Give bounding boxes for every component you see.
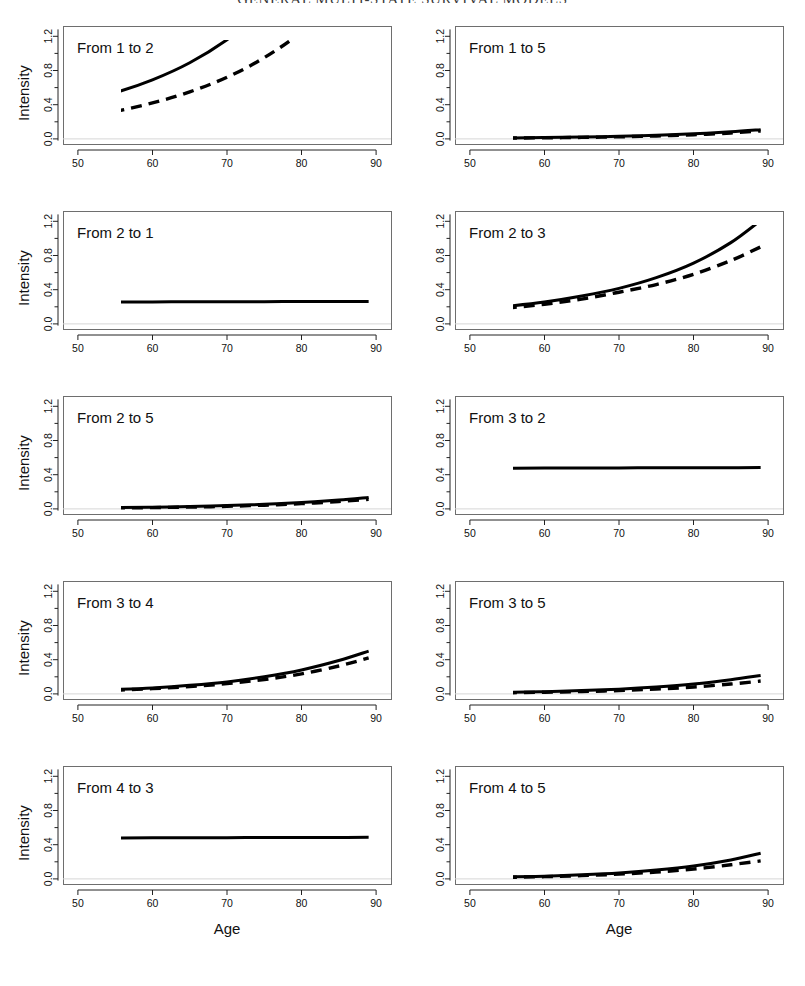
panel-title: From 4 to 3 — [77, 779, 154, 796]
y-tick-label: 0.0 — [434, 501, 446, 516]
x-tick-label: 70 — [221, 712, 233, 724]
x-tick-label: 90 — [370, 157, 382, 169]
figure-multi-panel-intensity-plots: GENERAL MULTI-STATE SURVIVAL MODELS 0.00… — [0, 0, 805, 986]
panel-from-1-to-5: 0.00.40.81.25060708090From 1 to 5 — [397, 12, 805, 192]
x-tick-label: 60 — [539, 342, 551, 354]
panel-from-3-to-2: 0.00.40.81.25060708090From 3 to 2 — [397, 382, 805, 562]
x-tick-label: 60 — [539, 527, 551, 539]
series-line-solid — [78, 837, 369, 838]
x-tick-label: 50 — [72, 712, 84, 724]
x-tick-label: 70 — [613, 712, 625, 724]
y-tick-label: 0.8 — [434, 63, 446, 78]
panel-from-4-to-5: 0.00.40.81.25060708090From 4 to 5 — [397, 752, 805, 932]
x-tick-label: 80 — [688, 157, 700, 169]
y-tick-label: 1.2 — [434, 399, 446, 414]
y-tick-label: 0.4 — [42, 837, 54, 852]
panel-title: From 2 to 1 — [77, 224, 154, 241]
x-tick-label: 50 — [72, 342, 84, 354]
y-tick-label: 0.0 — [42, 686, 54, 701]
y-axis-label: Intensity — [15, 65, 32, 121]
y-tick-label: 0.8 — [42, 433, 54, 448]
x-tick-label: 50 — [72, 157, 84, 169]
x-tick-label: 70 — [613, 897, 625, 909]
x-tick-label: 80 — [296, 897, 308, 909]
x-axis-label: Age — [455, 920, 783, 937]
panel-title: From 1 to 5 — [469, 39, 546, 56]
y-tick-label: 0.4 — [434, 282, 446, 297]
y-tick-label: 0.4 — [434, 652, 446, 667]
y-tick-label: 0.8 — [434, 248, 446, 263]
panel-from-2-to-3: 0.00.40.81.25060708090From 2 to 3 — [397, 197, 805, 377]
x-tick-label: 60 — [539, 897, 551, 909]
y-tick-label: 0.8 — [42, 248, 54, 263]
panel-from-1-to-2: 0.00.40.81.25060708090From 1 to 2 — [5, 12, 415, 192]
x-tick-label: 80 — [296, 712, 308, 724]
x-tick-label: 90 — [370, 712, 382, 724]
y-tick-label: 1.2 — [42, 214, 54, 229]
y-tick-label: 0.8 — [42, 618, 54, 633]
y-tick-label: 0.4 — [434, 837, 446, 852]
x-tick-label: 70 — [613, 157, 625, 169]
series-line-solid — [78, 301, 369, 302]
x-tick-label: 80 — [688, 712, 700, 724]
x-tick-label: 90 — [762, 712, 774, 724]
y-tick-label: 0.0 — [434, 686, 446, 701]
y-axis-label: Intensity — [15, 805, 32, 861]
panel-title: From 2 to 3 — [469, 224, 546, 241]
x-tick-label: 50 — [464, 897, 476, 909]
x-tick-label: 60 — [147, 897, 159, 909]
x-tick-label: 80 — [688, 897, 700, 909]
panel-title: From 1 to 2 — [77, 39, 154, 56]
y-tick-label: 0.0 — [42, 501, 54, 516]
x-tick-label: 50 — [72, 527, 84, 539]
panel-title: From 3 to 2 — [469, 409, 546, 426]
panel-from-2-to-5: 0.00.40.81.25060708090From 2 to 5 — [5, 382, 415, 562]
y-axis-label: Intensity — [15, 435, 32, 491]
x-tick-label: 90 — [370, 527, 382, 539]
x-tick-label: 90 — [370, 342, 382, 354]
y-tick-label: 0.4 — [42, 97, 54, 112]
x-tick-label: 80 — [688, 342, 700, 354]
x-tick-label: 80 — [688, 527, 700, 539]
y-tick-label: 1.2 — [42, 769, 54, 784]
y-tick-label: 0.4 — [434, 97, 446, 112]
x-tick-label: 50 — [464, 527, 476, 539]
y-tick-label: 0.0 — [42, 871, 54, 886]
y-tick-label: 1.2 — [42, 399, 54, 414]
y-tick-label: 0.8 — [434, 433, 446, 448]
x-tick-label: 70 — [221, 527, 233, 539]
panel-title: From 2 to 5 — [77, 409, 154, 426]
y-axis-label: Intensity — [15, 250, 32, 306]
y-tick-label: 0.4 — [42, 282, 54, 297]
x-tick-label: 60 — [147, 342, 159, 354]
panel-title: From 4 to 5 — [469, 779, 546, 796]
x-tick-label: 60 — [147, 527, 159, 539]
panel-title: From 3 to 4 — [77, 594, 154, 611]
y-tick-label: 0.4 — [434, 467, 446, 482]
x-tick-label: 70 — [613, 527, 625, 539]
x-axis-label: Age — [63, 920, 391, 937]
panel-from-3-to-4: 0.00.40.81.25060708090From 3 to 4 — [5, 567, 415, 747]
x-tick-label: 50 — [464, 712, 476, 724]
panel-title: From 3 to 5 — [469, 594, 546, 611]
y-tick-label: 0.0 — [434, 871, 446, 886]
x-tick-label: 70 — [221, 157, 233, 169]
x-tick-label: 80 — [296, 342, 308, 354]
x-tick-label: 80 — [296, 157, 308, 169]
x-tick-label: 70 — [613, 342, 625, 354]
y-tick-label: 0.0 — [42, 316, 54, 331]
x-tick-label: 50 — [464, 157, 476, 169]
x-tick-label: 90 — [370, 897, 382, 909]
x-tick-label: 60 — [147, 712, 159, 724]
x-tick-label: 90 — [762, 342, 774, 354]
panel-from-3-to-5: 0.00.40.81.25060708090From 3 to 5 — [397, 567, 805, 747]
y-tick-label: 1.2 — [42, 584, 54, 599]
y-tick-label: 0.4 — [42, 467, 54, 482]
x-tick-label: 70 — [221, 897, 233, 909]
y-tick-label: 0.8 — [434, 803, 446, 818]
y-tick-label: 1.2 — [42, 29, 54, 44]
x-tick-label: 80 — [296, 527, 308, 539]
x-tick-label: 60 — [539, 157, 551, 169]
y-axis-label: Intensity — [15, 620, 32, 676]
y-tick-label: 0.8 — [42, 63, 54, 78]
